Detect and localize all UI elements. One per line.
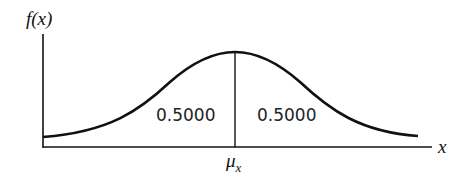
mean-symbol: μ bbox=[226, 150, 236, 171]
bell-curve bbox=[43, 52, 418, 137]
y-axis-label: f(x) bbox=[26, 8, 52, 30]
right-area-label: 0.5000 bbox=[257, 105, 316, 125]
mean-subscript: x bbox=[236, 160, 242, 175]
x-axis-label: x bbox=[438, 136, 446, 158]
mean-label: μx bbox=[226, 150, 241, 176]
left-area-label: 0.5000 bbox=[156, 105, 215, 125]
